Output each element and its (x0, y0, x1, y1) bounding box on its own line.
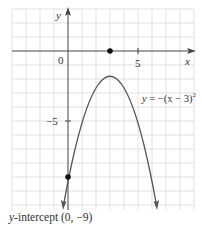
equation-label: y = −(x − 3)2 (142, 92, 196, 104)
vertex-point (107, 48, 113, 54)
y-tick-neg5: −5 (46, 116, 58, 127)
graph-canvas (0, 0, 202, 229)
x-tick-5: 5 (135, 58, 141, 69)
origin-label: 0 (58, 55, 64, 66)
y-axis-label: y (56, 10, 61, 21)
y-intercept-label: y-intercept (0, −9) (9, 212, 92, 224)
x-axis-label: x (185, 56, 190, 67)
y-intercept-point (65, 174, 71, 180)
grid (12, 9, 194, 210)
axes (12, 12, 190, 210)
